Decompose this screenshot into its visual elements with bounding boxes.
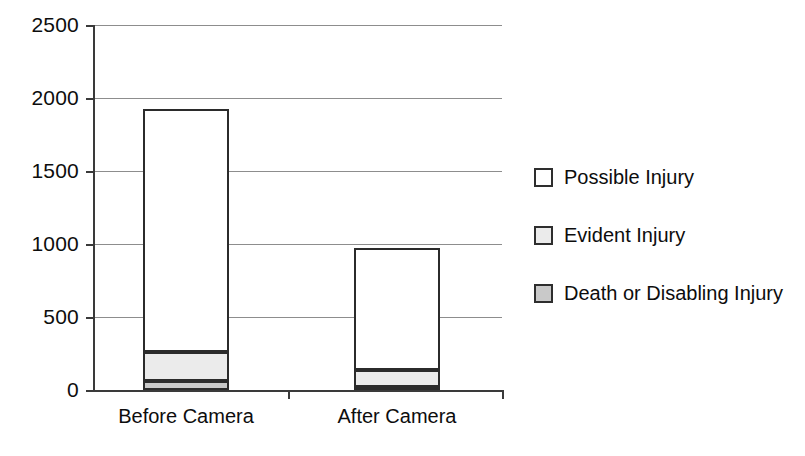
y-tick-label-1500: 1500 bbox=[31, 160, 79, 181]
y-tick-label-2500: 2500 bbox=[31, 14, 79, 35]
x-axis-category-divider-tick bbox=[288, 390, 290, 399]
y-tick-label-2000: 2000 bbox=[31, 87, 79, 108]
y-tick-1000 bbox=[86, 244, 95, 246]
legend-label-evident-injury: Evident Injury bbox=[564, 224, 685, 247]
legend-swatch-possible-injury bbox=[534, 168, 553, 187]
legend-swatch-death-or-disabling-injury bbox=[534, 284, 553, 303]
y-tick-1500 bbox=[86, 171, 95, 173]
x-axis-line bbox=[93, 390, 503, 392]
y-tick-label-1000: 1000 bbox=[31, 233, 79, 254]
y-tick-500 bbox=[86, 317, 95, 319]
y-tick-label-500: 500 bbox=[43, 306, 79, 327]
legend-item-evident-injury[interactable]: Evident Injury bbox=[534, 221, 802, 249]
y-tick-label-0: 0 bbox=[67, 379, 79, 400]
stacked-bar-chart: 2500 2000 1500 1000 500 0 bbox=[0, 0, 805, 456]
y-axis-line bbox=[93, 25, 95, 391]
plot-area bbox=[93, 25, 502, 390]
legend-label-possible-injury: Possible Injury bbox=[564, 166, 694, 189]
y-tick-2000 bbox=[86, 98, 95, 100]
y-tick-2500 bbox=[86, 25, 95, 27]
bar-segment-possible-injury[interactable] bbox=[143, 109, 229, 352]
bar-segment-evident-injury[interactable] bbox=[143, 352, 229, 381]
legend: Possible Injury Evident Injury Death or … bbox=[534, 163, 802, 337]
bar-after-camera[interactable] bbox=[354, 25, 440, 390]
legend-label-death-or-disabling-injury: Death or Disabling Injury bbox=[564, 282, 783, 305]
x-tick-label-before-camera: Before Camera bbox=[100, 404, 272, 428]
y-axis-tick-labels: 2500 2000 1500 1000 500 0 bbox=[0, 0, 79, 456]
legend-item-possible-injury[interactable]: Possible Injury bbox=[534, 163, 802, 191]
bar-before-camera[interactable] bbox=[143, 25, 229, 390]
bar-segment-death-or-disabling-injury[interactable] bbox=[143, 381, 229, 390]
x-axis-end-tick bbox=[502, 390, 504, 399]
bar-segment-possible-injury[interactable] bbox=[354, 248, 440, 370]
x-tick-label-after-camera: After Camera bbox=[315, 404, 479, 428]
bar-segment-evident-injury[interactable] bbox=[354, 370, 440, 387]
legend-item-death-or-disabling-injury[interactable]: Death or Disabling Injury bbox=[534, 279, 802, 307]
legend-swatch-evident-injury bbox=[534, 226, 553, 245]
